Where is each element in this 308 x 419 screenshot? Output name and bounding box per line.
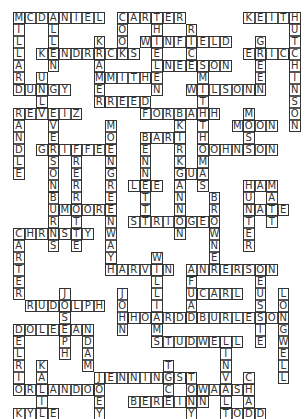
grid-cell[interactable]: E [140,144,152,156]
grid-cell[interactable]: E [94,396,106,408]
grid-cell[interactable]: O [82,384,94,396]
grid-cell[interactable]: I [151,264,163,276]
grid-cell[interactable]: S [174,372,186,384]
grid-cell[interactable]: Z [71,108,83,120]
grid-cell[interactable]: H [140,72,152,84]
grid-cell[interactable]: J [59,288,71,300]
grid-cell[interactable]: D [140,96,152,108]
grid-cell[interactable]: E [163,12,175,24]
grid-cell[interactable]: A [13,240,25,252]
grid-cell[interactable]: E [197,216,209,228]
grid-cell[interactable]: T [289,36,301,48]
grid-cell[interactable]: T [151,12,163,24]
grid-cell[interactable]: U [255,288,267,300]
grid-cell[interactable]: T [71,216,83,228]
grid-cell[interactable]: W [140,36,152,48]
grid-cell[interactable]: N [59,48,71,60]
grid-cell[interactable]: H [25,228,37,240]
grid-cell[interactable]: E [25,108,37,120]
grid-cell[interactable]: A [94,60,106,72]
grid-cell[interactable]: U [25,84,37,96]
grid-cell[interactable]: E [151,48,163,60]
grid-cell[interactable]: E [151,72,163,84]
grid-cell[interactable]: N [220,360,232,372]
grid-cell[interactable]: T [278,12,290,24]
grid-cell[interactable]: T [163,336,175,348]
grid-cell[interactable]: G [105,168,117,180]
grid-cell[interactable]: R [13,252,25,264]
grid-cell[interactable]: L [13,48,25,60]
grid-cell[interactable]: N [266,264,278,276]
grid-cell[interactable]: D [186,312,198,324]
grid-cell[interactable]: S [128,216,140,228]
grid-cell[interactable]: W [209,228,221,240]
grid-cell[interactable]: H [94,300,106,312]
grid-cell[interactable]: R [13,288,25,300]
grid-cell[interactable]: N [140,156,152,168]
grid-cell[interactable]: V [220,372,232,384]
grid-cell[interactable]: R [174,144,186,156]
grid-cell[interactable]: R [71,192,83,204]
grid-cell[interactable]: I [255,324,267,336]
grid-cell[interactable]: O [117,36,129,48]
grid-cell[interactable]: E [48,132,60,144]
grid-cell[interactable]: G [163,372,175,384]
grid-cell[interactable]: I [174,132,186,144]
grid-cell[interactable]: E [48,48,60,60]
grid-cell[interactable]: D [186,336,198,348]
grid-cell[interactable]: E [220,264,232,276]
grid-cell[interactable]: N [117,324,129,336]
grid-cell[interactable]: O [59,300,71,312]
grid-cell[interactable]: E [255,276,267,288]
grid-cell[interactable]: G [174,168,186,180]
grid-cell[interactable]: O [255,120,267,132]
grid-cell[interactable]: I [289,72,301,84]
grid-cell[interactable]: U [48,204,60,216]
grid-cell[interactable]: G [278,324,290,336]
grid-cell[interactable]: Y [25,408,37,419]
grid-cell[interactable]: D [82,336,94,348]
grid-cell[interactable]: L [278,360,290,372]
grid-cell[interactable]: L [36,408,48,419]
grid-cell[interactable]: E [140,180,152,192]
grid-cell[interactable]: M [243,108,255,120]
grid-cell[interactable]: A [186,264,198,276]
grid-cell[interactable]: L [209,84,221,96]
grid-cell[interactable]: R [13,108,25,120]
grid-cell[interactable]: C [197,288,209,300]
grid-cell[interactable]: C [278,48,290,60]
grid-cell[interactable]: A [243,396,255,408]
grid-cell[interactable]: E [94,84,106,96]
grid-cell[interactable]: R [209,264,221,276]
grid-cell[interactable]: F [186,276,198,288]
grid-cell[interactable]: B [48,192,60,204]
grid-cell[interactable]: C [105,48,117,60]
grid-cell[interactable]: N [117,372,129,384]
grid-cell[interactable]: C [186,48,198,60]
grid-cell[interactable]: B [140,132,152,144]
grid-cell[interactable]: E [255,72,267,84]
grid-cell[interactable]: M [13,12,25,24]
grid-cell[interactable]: S [220,84,232,96]
grid-cell[interactable]: N [48,180,60,192]
grid-cell[interactable]: N [278,312,290,324]
grid-cell[interactable]: I [197,84,209,96]
grid-cell[interactable]: M [94,72,106,84]
grid-cell[interactable]: D [220,36,232,48]
grid-cell[interactable]: F [71,144,83,156]
grid-cell[interactable]: H [243,384,255,396]
grid-cell[interactable]: E [278,204,290,216]
grid-cell[interactable]: O [151,108,163,120]
grid-cell[interactable]: S [243,264,255,276]
grid-cell[interactable]: D [255,408,267,419]
grid-cell[interactable]: E [48,324,60,336]
grid-cell[interactable]: W [151,252,163,264]
grid-cell[interactable]: I [186,36,198,48]
grid-cell[interactable]: R [105,180,117,192]
grid-cell[interactable]: O [25,324,37,336]
grid-cell[interactable]: A [151,132,163,144]
grid-cell[interactable]: I [220,348,232,360]
grid-cell[interactable]: A [13,60,25,72]
grid-cell[interactable]: L [36,96,48,108]
grid-cell[interactable]: R [105,96,117,108]
